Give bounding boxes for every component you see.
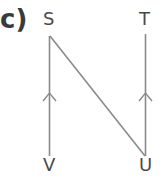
diagram-lines [0,0,165,179]
edge-s-u [50,36,145,156]
